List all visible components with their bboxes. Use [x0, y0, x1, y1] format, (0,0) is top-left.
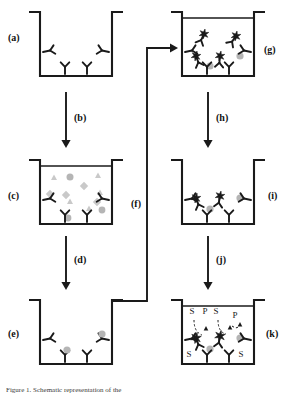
detection-antibody-enzyme-conjugate: [214, 331, 225, 348]
capture-antibody: [203, 210, 212, 222]
arrow-label-f: (f): [131, 198, 141, 209]
interferent-triangle: [67, 199, 73, 205]
substrate-label: S: [186, 349, 191, 359]
arrow-f-head: [170, 43, 178, 52]
well-outline: [171, 160, 265, 224]
interferent-triangle: [51, 175, 57, 181]
well-outline: [171, 12, 265, 76]
panel-a: [29, 12, 123, 76]
capture-antibody: [83, 62, 92, 74]
panel-i: [171, 160, 265, 224]
well-outline: [29, 160, 123, 224]
antigen-circle: [98, 330, 105, 337]
antigen-circle: [99, 207, 106, 214]
reaction-arrowhead: [238, 322, 243, 327]
substrate-to-product-path: [218, 320, 226, 334]
detection-antibody-enzyme-conjugate: [226, 31, 240, 47]
panel-label-a: (a): [8, 32, 20, 43]
arrow-h-head: [203, 140, 212, 148]
interferent-diamond: [62, 191, 70, 199]
elisa-schematic-drawing: SSSSPP: [0, 0, 298, 399]
reaction-arrowhead: [228, 325, 233, 330]
arrow-d: [61, 236, 70, 290]
panel-label-k: (k): [266, 328, 278, 339]
arrow-label-b: (b): [74, 112, 86, 123]
capture-antibody: [225, 210, 234, 222]
arrow-label-h: (h): [216, 112, 228, 123]
capture-antibody: [225, 62, 234, 74]
reaction-arrowhead: [204, 326, 209, 331]
arrow-j: [203, 236, 212, 290]
arrow-label-d: (d): [74, 254, 86, 265]
capture-antibody: [239, 45, 251, 53]
arrow-f: [112, 43, 178, 301]
arrow-b-head: [61, 140, 70, 148]
product-label: P: [232, 310, 237, 320]
detection-antibody-enzyme-conjugate: [214, 191, 225, 208]
arrow-label-j: (j): [216, 254, 226, 265]
capture-antibody: [97, 193, 109, 201]
capture-antibody: [83, 350, 92, 362]
capture-antibody: [43, 45, 55, 53]
arrow-b: [61, 92, 70, 148]
panel-label-g: (g): [264, 44, 276, 55]
panel-label-i: (i): [268, 190, 277, 201]
panel-g: [171, 12, 265, 76]
enzyme-star: [215, 191, 224, 201]
substrate-label: S: [189, 306, 194, 316]
well-outline: [29, 300, 123, 364]
enzyme-star: [215, 51, 224, 61]
detection-antibody-enzyme-conjugate: [215, 51, 225, 67]
well-outline: [29, 12, 123, 76]
antigen-circle: [63, 346, 70, 353]
arrow-d-head: [61, 282, 70, 290]
antigen-circle: [67, 174, 74, 181]
detection-antibody-enzyme-conjugate: [196, 29, 209, 46]
enzyme-star: [199, 29, 208, 39]
figure-caption: Figure 1. Schematic representation of th…: [6, 386, 294, 394]
arrow-h: [203, 92, 212, 148]
capture-antibody: [203, 350, 212, 362]
capture-antibody: [83, 210, 92, 222]
panel-label-e: (e): [8, 328, 19, 339]
arrow-j-head: [203, 282, 212, 290]
panel-label-c: (c): [8, 190, 19, 201]
panel-k: SSSSPP: [171, 300, 265, 364]
capture-antibody: [43, 333, 55, 341]
capture-antibody: [61, 62, 70, 74]
capture-antibody: [185, 45, 197, 53]
panel-c: [29, 160, 123, 224]
figure-canvas: SSSSPP (a) (c) (e) (g) (i) (k) (b) (d) (…: [0, 0, 298, 399]
arrow-f-shaft: [112, 48, 170, 301]
substrate-label: S: [238, 349, 243, 359]
interferent-diamond: [80, 182, 88, 190]
panel-e: [29, 300, 123, 364]
capture-antibody: [225, 350, 234, 362]
interferent-triangle: [95, 173, 101, 179]
product-label: P: [202, 306, 207, 316]
enzyme-star: [215, 331, 226, 342]
capture-antibody: [97, 45, 109, 53]
substrate-label: S: [213, 306, 218, 316]
